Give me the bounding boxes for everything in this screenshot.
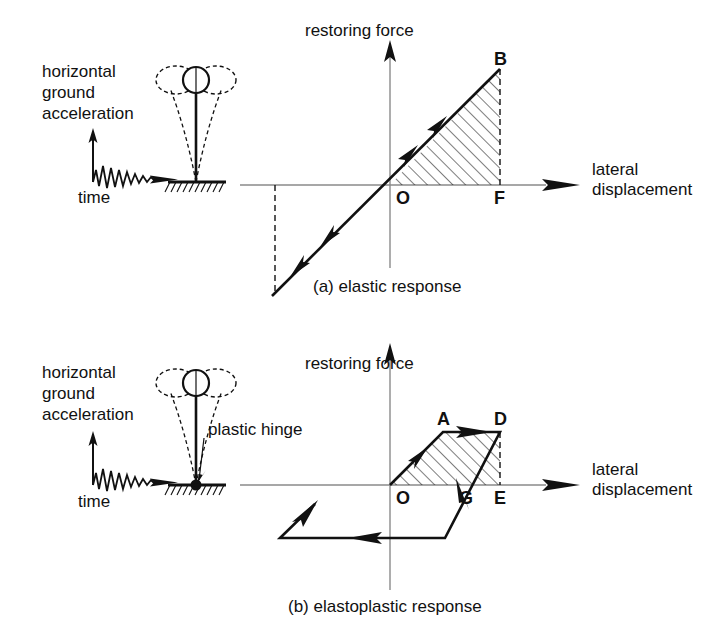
x-axis-label-b-line2: displacement: [592, 480, 692, 499]
absorbed-energy-hatch-b: [390, 432, 500, 485]
figure-canvas: horizontal ground acceleration time: [0, 0, 704, 643]
y-axis-label-b: restoring force: [305, 354, 414, 373]
point-label-d: D: [494, 410, 507, 428]
x-axis-label-b-line1: lateral: [592, 460, 638, 479]
point-label-o-b: O: [396, 489, 410, 507]
caption-b: (b) elastoplastic response: [288, 597, 482, 616]
x-axis-arrow-b: [542, 479, 580, 491]
point-label-g: G: [459, 489, 473, 507]
point-label-e: E: [494, 489, 506, 507]
point-label-a: A: [437, 410, 450, 428]
chart-elastoplastic-response: [0, 0, 704, 643]
